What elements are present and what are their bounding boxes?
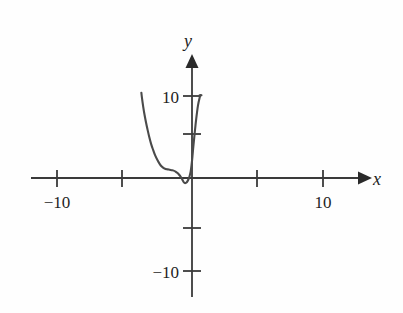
coordinate-plot: −10 10 10 −10 x y xyxy=(0,0,403,313)
x-tick-label-neg10: −10 xyxy=(44,193,71,212)
x-axis-arrowhead xyxy=(358,172,372,185)
x-tick-label-pos10: 10 xyxy=(315,193,332,212)
y-tick-label-pos10: 10 xyxy=(162,88,179,107)
y-axis-arrowhead xyxy=(186,54,199,68)
x-axis-label: x xyxy=(372,169,381,189)
y-axis-label: y xyxy=(182,31,192,51)
y-tick-label-neg10: −10 xyxy=(152,263,179,282)
graph-figure: −10 10 10 −10 x y xyxy=(0,0,403,313)
